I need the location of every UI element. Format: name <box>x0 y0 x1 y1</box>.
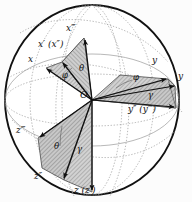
angle-label-gamma-right: γ <box>148 91 153 100</box>
axis-label-x: x <box>28 55 33 64</box>
euler-rotation-figure: x‴ x′ (x″) x y y y″ (y‴) z‴ z″ z (z′) O … <box>0 0 192 202</box>
angle-label-phi-right: φ <box>133 73 139 82</box>
origin-label: O <box>80 90 88 100</box>
angle-label-theta-upper-left: θ <box>79 64 84 73</box>
sphere-diagram-canvas <box>0 0 192 202</box>
axis-label-x-triple-prime: x‴ <box>66 24 76 33</box>
axis-label-y-tip: y <box>178 72 183 81</box>
axis-label-y-double-prime: y″ (y‴) <box>128 105 156 114</box>
angle-label-theta-lower-left: θ <box>54 142 59 151</box>
axis-label-x-prime: x′ (x″) <box>38 40 63 49</box>
angle-label-gamma-lower-left: γ <box>77 145 82 154</box>
axis-label-z-triple-prime: z‴ <box>16 126 25 135</box>
axis-label-z-double-prime: z″ <box>34 172 42 181</box>
axis-label-y: y <box>152 56 157 65</box>
angle-label-phi-upper-left: φ <box>62 71 68 80</box>
axis-label-z: z (z′) <box>74 186 95 195</box>
